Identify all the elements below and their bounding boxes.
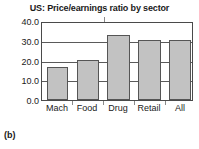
chart-title: US: Price/earnings ratio by sector: [0, 3, 199, 14]
y-tick-label-20: 20.0: [3, 58, 39, 67]
figure-panel: US: Price/earnings ratio by sector 40.0 …: [0, 0, 199, 149]
plot-area: [41, 22, 193, 101]
y-axis: 40.0 30.0 20.0 10.0 0.0: [0, 22, 39, 101]
bar-retail: [138, 40, 161, 100]
y-tick-label-0: 0.0: [3, 97, 39, 106]
x-tick-label-food: Food: [71, 103, 103, 114]
x-tick-label-mach: Mach: [41, 103, 73, 114]
panel-caption: (b): [4, 130, 16, 141]
bar-drug: [107, 35, 130, 101]
x-axis: Mach Food Drug Retail All: [41, 103, 193, 117]
x-tick-label-all: All: [165, 103, 195, 114]
bar-food: [77, 60, 99, 100]
bar-mach: [47, 67, 68, 100]
y-tick-label-30: 30.0: [3, 38, 39, 47]
x-tick-label-drug: Drug: [102, 103, 134, 114]
y-tick-label-40: 40.0: [3, 18, 39, 27]
y-tick-label-10: 10.0: [3, 77, 39, 86]
bar-all: [169, 40, 191, 100]
x-tick-label-retail: Retail: [132, 103, 166, 114]
